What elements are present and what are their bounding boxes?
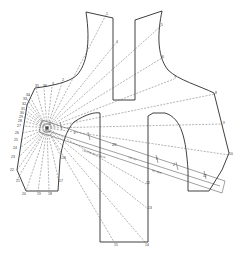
point-label: 14 (145, 243, 149, 247)
grading-rays (17, 15, 229, 242)
point-label: 9 (223, 121, 225, 125)
ruler-label-2: 2 (73, 131, 76, 135)
point-label: 31 (21, 107, 25, 111)
point-label: 24 (13, 146, 17, 150)
point-label: 21 (16, 179, 20, 183)
point-label: 12 (146, 181, 150, 185)
point-label: 13 (148, 206, 152, 210)
point-label: 26 (15, 131, 19, 135)
point-label: 35 (35, 84, 39, 88)
point-label: 32 (22, 102, 26, 106)
ruler-label-chst: CH / ST (128, 156, 138, 162)
ruler-label-hem: B/L HEM (152, 169, 162, 175)
point-label: 17 (59, 179, 63, 183)
point-label: 25 (14, 138, 18, 142)
point-label: 33 (23, 97, 27, 101)
point-label: 2 (62, 78, 64, 82)
point-label: 6 (162, 55, 164, 59)
ruler-label-0: 0 (49, 122, 51, 126)
ruler-label-1: 1 (156, 157, 158, 161)
point-label: 36 (43, 84, 47, 88)
ruler-label-12: 12 (203, 174, 207, 178)
back-bodice-outline (17, 11, 229, 242)
point-label: 1 (106, 12, 108, 16)
point-label: 22 (10, 168, 14, 172)
point-label: 34 (26, 93, 30, 97)
point-label: 29 (19, 115, 23, 119)
point-label: 27 (17, 124, 21, 128)
point-label: 18 (48, 192, 52, 196)
point-label: 4 (116, 40, 118, 44)
point-label: 7 (174, 76, 176, 80)
point-label: 15 (114, 243, 118, 247)
point-label: 28 (18, 119, 22, 123)
point-label: 3 (52, 82, 54, 86)
point-label: 23 (11, 155, 15, 159)
point-label: 5 (161, 23, 163, 27)
point-label: 30 (20, 111, 24, 115)
point-label: 16 (62, 156, 66, 160)
point-label: 8 (215, 91, 217, 95)
point-label: 20 (22, 192, 26, 196)
point-label: 19 (37, 192, 41, 196)
ruler-label-25: 25 (111, 142, 117, 147)
ruler-label-cbn: CENTRE BACK NECK (82, 149, 106, 159)
ruler-label-2b: 2 (172, 163, 175, 167)
pivot-point (46, 127, 48, 129)
pattern-diagram: 0 2 25 CENTRE BACK NECK CH / ST 1 2 B/L … (0, 0, 243, 254)
point-label: 10 (229, 152, 233, 156)
